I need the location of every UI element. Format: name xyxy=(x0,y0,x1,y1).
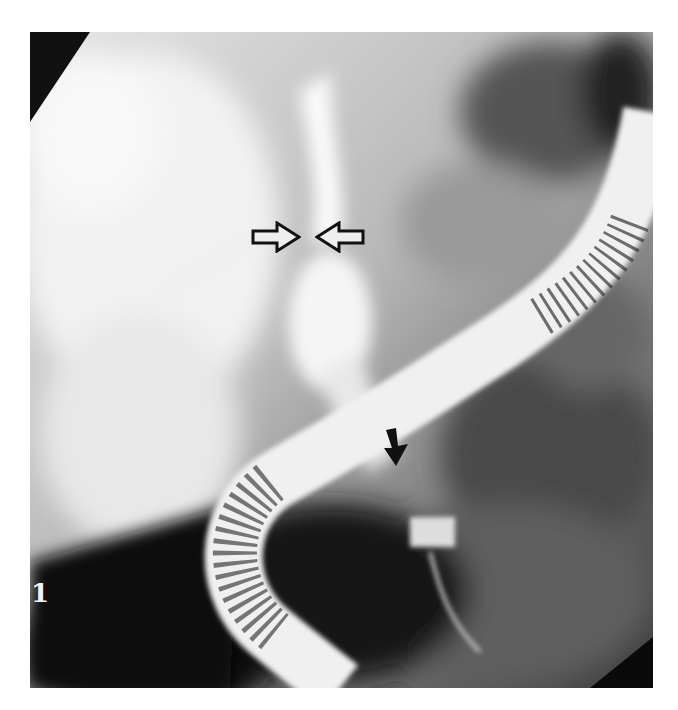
panel-label: 1 xyxy=(31,580,49,606)
solid-arrow-down-icon xyxy=(382,428,412,468)
xray-image xyxy=(30,32,653,688)
xray-canvas xyxy=(30,32,653,688)
open-arrow-right-icon xyxy=(251,221,301,253)
open-arrow-left-icon xyxy=(315,221,365,253)
